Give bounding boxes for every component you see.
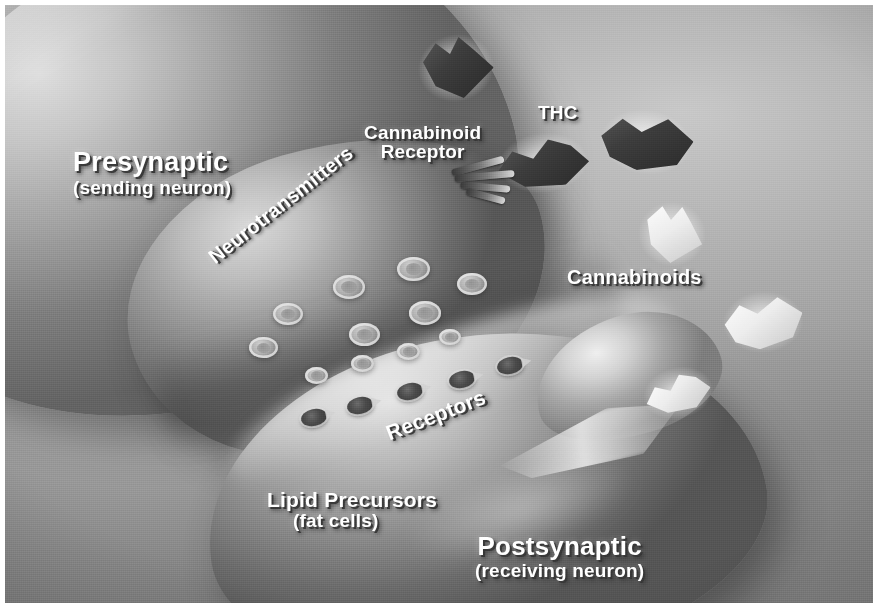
label-lipid-precursors-sub: (fat cells) (267, 511, 437, 530)
label-lipid-precursors: Lipid Precursors (fat cells) (267, 489, 437, 531)
cannabinoid-bound (641, 366, 715, 421)
neurotransmitter-vesicle (397, 343, 420, 360)
label-postsynaptic-main: Postsynaptic (475, 533, 644, 560)
label-presynaptic: Presynaptic (sending neuron) (73, 149, 231, 197)
thc-molecule-top (413, 30, 498, 106)
neurotransmitter-vesicle (333, 275, 365, 299)
label-presynaptic-sub: (sending neuron) (73, 178, 231, 197)
thc-molecule-right (595, 107, 696, 178)
label-cannabinoids: Cannabinoids (567, 267, 702, 287)
label-cannabinoid-receptor-sub: Receptor (364, 142, 481, 161)
neurotransmitter-vesicle (409, 301, 441, 325)
label-postsynaptic-sub: (receiving neuron) (475, 561, 644, 580)
neurotransmitter-vesicle (305, 367, 328, 384)
label-presynaptic-main: Presynaptic (73, 149, 231, 177)
illustration-canvas: Presynaptic (sending neuron) Cannabinoid… (0, 0, 876, 612)
label-cannabinoid-receptor-main: Cannabinoid (364, 123, 481, 142)
label-thc: THC (538, 103, 578, 122)
illustration-plate: Presynaptic (sending neuron) Cannabinoid… (5, 5, 873, 603)
neurotransmitter-vesicle (349, 323, 380, 346)
label-cannabinoid-receptor: Cannabinoid Receptor (364, 123, 481, 162)
cannabinoid-lower (721, 292, 805, 351)
label-lipid-precursors-main: Lipid Precursors (267, 489, 437, 510)
label-postsynaptic: Postsynaptic (receiving neuron) (475, 533, 644, 580)
cannabinoid-upper (638, 202, 706, 266)
neurotransmitter-vesicle (351, 355, 374, 372)
neurotransmitter-vesicle (273, 303, 303, 325)
neurotransmitter-vesicle (457, 273, 487, 295)
